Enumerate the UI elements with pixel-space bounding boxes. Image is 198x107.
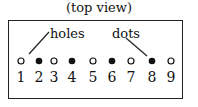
- position-number: 8: [145, 70, 159, 84]
- hole-7: [128, 58, 134, 64]
- holes-label: holes: [50, 27, 85, 41]
- position-number: 6: [105, 70, 119, 84]
- dot-4: [69, 58, 76, 65]
- dots-label: dots: [112, 27, 140, 41]
- position-number: 2: [32, 70, 46, 84]
- position-number: 4: [65, 70, 79, 84]
- position-number: 5: [86, 70, 100, 84]
- position-number: 9: [164, 70, 178, 84]
- dot-8: [149, 58, 156, 65]
- hole-1: [18, 58, 24, 64]
- position-number: 3: [47, 70, 61, 84]
- hole-5: [90, 58, 96, 64]
- hole-9: [168, 58, 174, 64]
- position-number: 1: [14, 70, 28, 84]
- dot-2: [36, 58, 43, 65]
- hole-3: [51, 58, 57, 64]
- diagram-graphics: [0, 0, 198, 107]
- position-number: 7: [124, 70, 138, 84]
- holes-leader-line: [29, 32, 49, 54]
- dot-6: [109, 58, 116, 65]
